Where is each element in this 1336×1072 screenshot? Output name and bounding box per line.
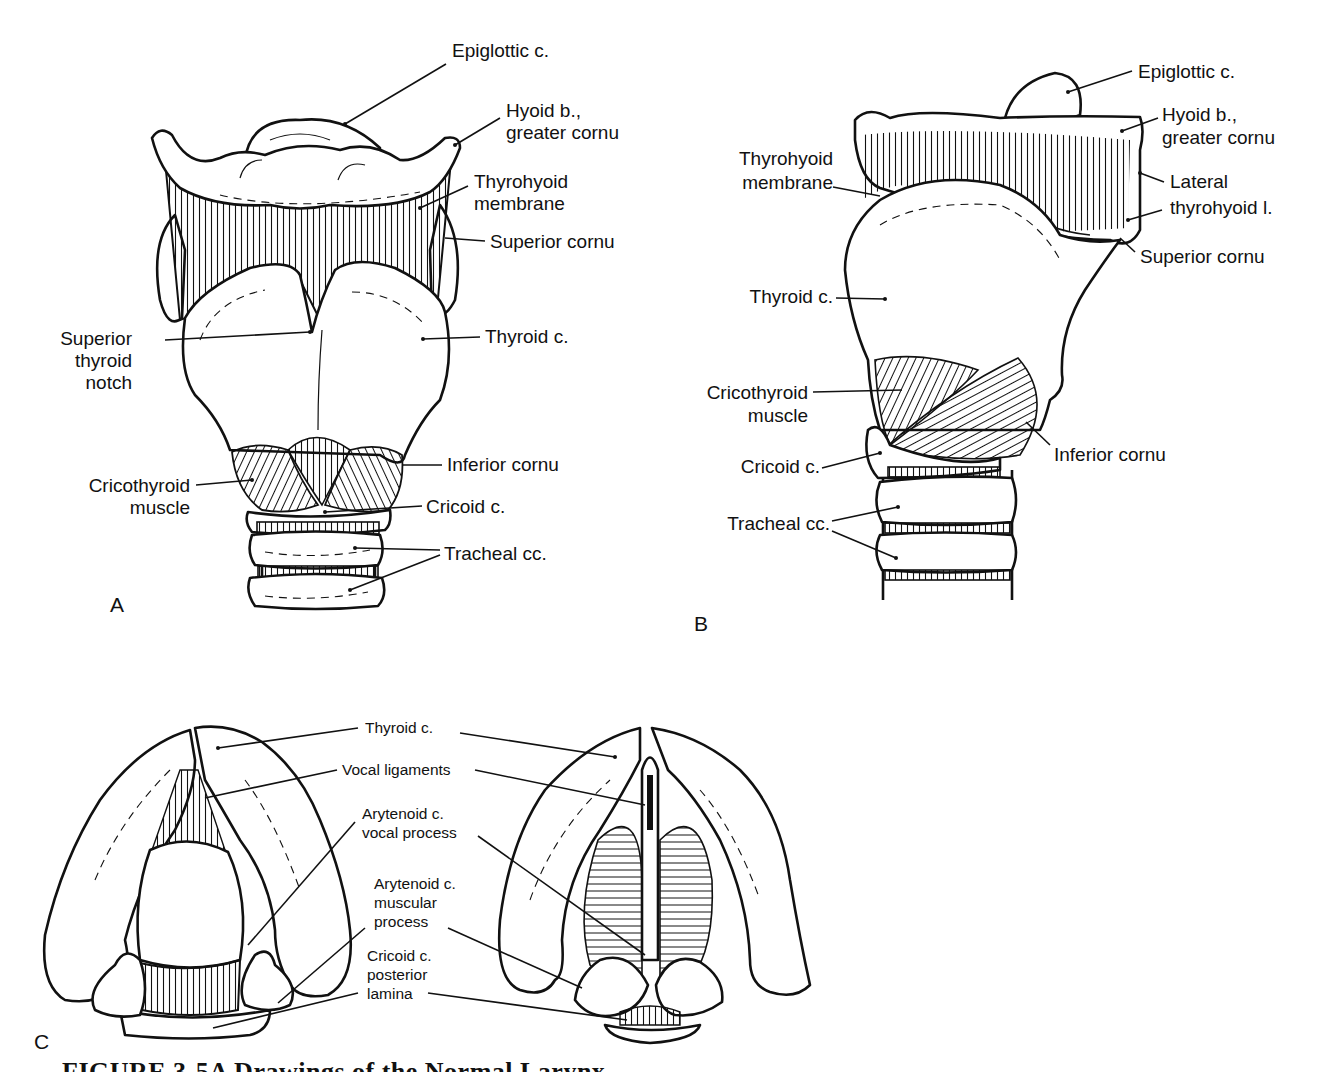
panel-b-drawing <box>845 73 1143 600</box>
label-b-lateral-2: thyrohyoid l. <box>1170 197 1272 219</box>
label-c-arytenoid-musc-2: muscular <box>374 893 437 912</box>
label-a-hyoid-1: Hyoid b., <box>506 100 581 122</box>
label-c-arytenoid-vocal-1: Arytenoid c. <box>362 804 444 823</box>
label-c-thyroid: Thyroid c. <box>365 718 433 737</box>
label-a-thyroid: Thyroid c. <box>485 326 568 348</box>
label-a-hyoid-2: greater cornu <box>506 122 619 144</box>
label-b-inferior-cornu: Inferior cornu <box>1054 444 1166 466</box>
panel-letter-a: A <box>110 593 124 617</box>
label-c-vocal-ligaments: Vocal ligaments <box>342 760 451 779</box>
label-a-notch-2: thyroid <box>46 350 132 372</box>
label-c-cricoid-2: posterior <box>367 965 427 984</box>
label-a-notch-3: notch <box>46 372 132 394</box>
label-a-cricothyroid-2: muscle <box>60 497 190 519</box>
label-b-hyoid-1: Hyoid b., <box>1162 104 1237 126</box>
label-b-lateral-1: Lateral <box>1170 171 1228 193</box>
panel-c-right-drawing <box>499 728 810 1043</box>
label-c-cricoid-3: lamina <box>367 984 413 1003</box>
label-a-superior-cornu: Superior cornu <box>490 231 615 253</box>
label-b-epiglottic: Epiglottic c. <box>1138 61 1235 83</box>
label-a-cricothyroid-1: Cricothyroid <box>60 475 190 497</box>
label-c-arytenoid-musc-1: Arytenoid c. <box>374 874 456 893</box>
panel-a-drawing <box>152 119 460 609</box>
label-a-tracheal: Tracheal cc. <box>444 543 547 565</box>
label-b-hyoid-2: greater cornu <box>1162 127 1275 149</box>
label-a-cricoid: Cricoid c. <box>426 496 505 518</box>
label-b-cricoid: Cricoid c. <box>700 456 820 478</box>
panel-c-left-drawing <box>44 727 351 1039</box>
label-b-thyrohyoid-1: Thyrohyoid <box>700 148 833 170</box>
label-c-arytenoid-musc-3: process <box>374 912 428 931</box>
label-a-inferior-cornu: Inferior cornu <box>447 454 559 476</box>
label-a-thyrohyoid-1: Thyrohyoid <box>474 171 568 193</box>
label-b-cricothyroid-2: muscle <box>680 405 808 427</box>
panel-letter-c: C <box>34 1030 49 1054</box>
figure-caption: FIGURE 3-5A Drawings of the Normal Laryn… <box>62 1057 605 1072</box>
label-a-thyrohyoid-2: membrane <box>474 193 565 215</box>
label-b-thyrohyoid-2: membrane <box>700 172 833 194</box>
label-b-cricothyroid-1: Cricothyroid <box>680 382 808 404</box>
label-c-cricoid-1: Cricoid c. <box>367 946 432 965</box>
label-c-arytenoid-vocal-2: vocal process <box>362 823 457 842</box>
label-b-thyroid: Thyroid c. <box>700 286 833 308</box>
larynx-figure <box>0 0 1336 1072</box>
label-b-tracheal: Tracheal cc. <box>680 513 830 535</box>
label-a-notch-1: Superior <box>46 328 132 350</box>
label-b-superior-cornu: Superior cornu <box>1140 246 1265 268</box>
panel-letter-b: B <box>694 612 708 636</box>
label-a-epiglottic: Epiglottic c. <box>452 40 549 62</box>
